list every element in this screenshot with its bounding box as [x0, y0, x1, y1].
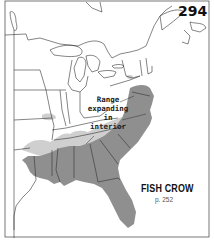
page-reference: p. 252 [155, 196, 173, 203]
annotation-line: interior [82, 122, 134, 131]
range-annotation: Range expanding in interior [82, 95, 134, 131]
annotation-line: Range [82, 95, 134, 104]
range-map: 294 Range expanding in interior FISH CRO… [0, 0, 214, 241]
species-name: FISH CROW [141, 182, 194, 194]
map-number: 294 [178, 3, 207, 19]
annotation-line: in [82, 113, 134, 122]
annotation-line: expanding [82, 104, 134, 113]
